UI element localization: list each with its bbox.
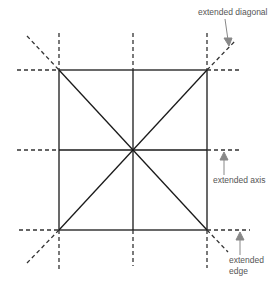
square [59, 70, 207, 230]
square-symmetry-diagram: extended diagonal extended axis extended… [0, 0, 269, 298]
label-extended-edge-line2: edge [229, 266, 248, 276]
label-extended-axis: extended axis [213, 175, 265, 185]
annotation-arrows [220, 19, 244, 255]
label-extended-diagonal: extended diagonal [198, 7, 268, 17]
label-extended-edge-line1: extended [229, 255, 264, 265]
